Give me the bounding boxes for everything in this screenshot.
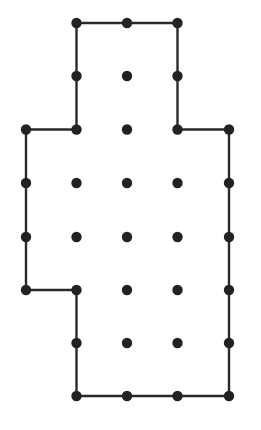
grid-dot — [122, 124, 132, 134]
grid-dot — [21, 232, 31, 242]
grid-dot — [224, 124, 234, 134]
grid-dot — [172, 71, 182, 81]
grid-dot — [71, 71, 81, 81]
grid-dot — [122, 285, 132, 295]
grid-dot — [122, 178, 132, 188]
grid-dot — [172, 178, 182, 188]
grid-dot — [71, 232, 81, 242]
grid-dot — [71, 18, 81, 28]
grid-dot — [122, 71, 132, 81]
dot-grid-diagram — [0, 0, 261, 430]
grid-dot — [122, 18, 132, 28]
grid-dot — [122, 391, 132, 401]
grid-dot — [71, 391, 81, 401]
grid-dot — [172, 18, 182, 28]
grid-dot — [71, 338, 81, 348]
grid-dot — [71, 124, 81, 134]
grid-dot — [172, 232, 182, 242]
grid-dot — [224, 391, 234, 401]
grid-dot — [21, 285, 31, 295]
grid-dot — [71, 285, 81, 295]
grid-dot — [122, 232, 132, 242]
grid-dot — [21, 178, 31, 188]
grid-dot — [71, 178, 81, 188]
grid-dot — [224, 178, 234, 188]
grid-dot — [224, 232, 234, 242]
grid-dot — [21, 124, 31, 134]
background — [0, 0, 261, 430]
grid-dot — [172, 285, 182, 295]
grid-dot — [172, 391, 182, 401]
grid-dot — [224, 285, 234, 295]
grid-dot — [172, 124, 182, 134]
grid-dot — [122, 338, 132, 348]
grid-dot — [224, 338, 234, 348]
grid-dot — [172, 338, 182, 348]
